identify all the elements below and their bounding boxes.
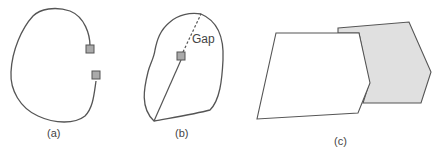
endpoint-marker-bottom — [92, 71, 100, 79]
white-quadrilateral — [257, 33, 370, 119]
panel-b-figure — [144, 13, 223, 121]
interior-point-marker — [177, 52, 185, 60]
panel-b-label: (b) — [175, 127, 188, 139]
endpoint-marker-top — [86, 45, 94, 53]
panel-c-figure — [257, 22, 431, 119]
panel-a-label: (a) — [47, 127, 60, 139]
open-curve — [11, 9, 96, 122]
panel-c-label: (c) — [334, 135, 347, 147]
solid-segment — [154, 60, 181, 121]
closed-blob — [144, 13, 223, 121]
diagram-canvas — [0, 0, 441, 155]
panel-a-figure — [11, 9, 100, 122]
gap-annotation: Gap — [192, 32, 215, 46]
